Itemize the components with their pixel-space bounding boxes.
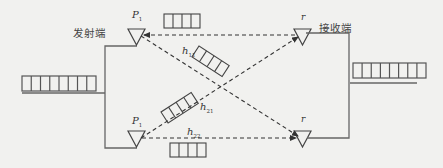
h11-subscript: 11 xyxy=(188,52,195,58)
rx-antenna-top-label: r xyxy=(301,12,305,22)
stream-buffer-top xyxy=(164,14,200,28)
rx-antenna-top-icon xyxy=(294,29,311,45)
link-top-to-bottom xyxy=(141,36,298,136)
tx-antenna-top-label: P1 xyxy=(132,9,142,22)
transmit-splitter-lines xyxy=(22,46,137,148)
receive-combiner-lines xyxy=(306,33,417,138)
rx-antenna-bottom-icon xyxy=(294,131,311,147)
tx-bottom-subscript: 1 xyxy=(139,122,143,128)
receiver-label: 接收端 xyxy=(319,20,352,35)
mimo-diagram: 发射端 接收端 P1 P1 r r h11 h21 h22 xyxy=(0,0,443,168)
channel-links xyxy=(141,35,298,138)
input-buffer xyxy=(22,76,96,91)
tx-antenna-bottom-icon xyxy=(128,131,145,147)
stream-buffer-bottom xyxy=(170,143,206,157)
diagram-canvas xyxy=(0,0,443,168)
h22-label: h22 xyxy=(187,126,200,139)
tx-antenna-bottom-label: P1 xyxy=(132,115,142,128)
rx-antenna-bottom-label: r xyxy=(301,114,305,124)
stream-buffer-diag-up xyxy=(161,92,198,123)
h21-subscript: 21 xyxy=(206,108,213,114)
link-bottom-to-top xyxy=(141,37,298,138)
h22-subscript: 22 xyxy=(193,133,200,139)
tx-top-symbol: P xyxy=(132,9,139,20)
h11-label: h11 xyxy=(182,45,195,58)
output-buffer xyxy=(353,63,426,78)
tx-top-subscript: 1 xyxy=(139,16,143,22)
tx-bottom-symbol: P xyxy=(132,115,139,126)
transmitter-label: 发射端 xyxy=(73,25,106,40)
h21-label: h21 xyxy=(200,101,213,114)
